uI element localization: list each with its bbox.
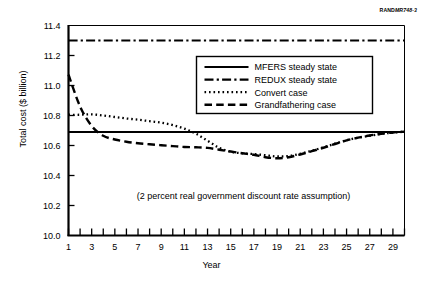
y-tick-label: 10.4 [43,171,61,181]
y-tick-label: 11.4 [44,21,61,31]
x-tick-label: 25 [342,242,352,252]
y-tick-label: 10.2 [43,201,61,211]
legend-label: REDUX steady state [255,75,338,85]
series-line-convert-case [69,114,405,156]
x-tick-label: 27 [365,242,375,252]
y-axis-title: Total cost ($ billion) [18,34,28,184]
y-tick-label: 10.0 [43,231,61,241]
y-tick-label: 11.0 [44,81,61,91]
legend-label: Convert case [255,88,308,98]
x-tick-label: 9 [159,242,164,252]
x-axis-title: Year [0,260,423,270]
x-tick-label: 7 [136,242,141,252]
legend-label: MFERS steady state [255,62,338,72]
x-tick-label: 3 [89,242,94,252]
y-tick-label: 11.2 [44,51,61,61]
x-tick-label: 15 [226,242,236,252]
x-tick-label: 13 [203,242,213,252]
y-tick-label: 10.6 [43,141,61,151]
x-tick-label: 29 [388,242,398,252]
chart-figure: RANDMR748-3 11.411.211.010.810.610.410.2… [0,0,423,287]
x-tick-label: 5 [112,242,117,252]
x-tick-label: 1 [66,242,71,252]
chart-annotation: (2 percent real government discount rate… [137,191,351,201]
x-tick-label: 23 [318,242,328,252]
x-tick-label: 17 [249,242,259,252]
y-tick-label: 10.8 [43,111,61,121]
x-tick-label: 19 [272,242,282,252]
legend-label: Grandfathering case [255,100,337,110]
x-tick-label: 11 [180,242,189,252]
x-tick-label: 21 [295,242,305,252]
line-chart-plot: 11.411.211.010.810.610.410.210.013579111… [0,0,423,287]
